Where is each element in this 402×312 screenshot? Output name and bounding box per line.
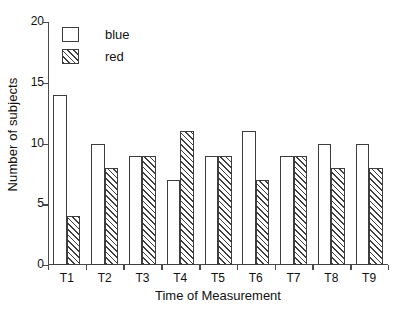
- legend-label-blue: blue: [105, 27, 130, 42]
- y-axis-tick-label: 5: [37, 196, 44, 210]
- bar-t2-blue: [91, 144, 105, 266]
- x-axis-tick-label-t4: T4: [173, 271, 187, 285]
- x-axis-tick-mark: [388, 265, 389, 270]
- x-axis-title: Time of Measurement: [48, 288, 388, 303]
- bar-t5-red: [218, 156, 232, 265]
- chart-legend: blue red: [62, 24, 130, 68]
- bar-t6-blue: [242, 131, 256, 265]
- x-axis-tick-mark: [161, 265, 162, 270]
- x-axis-tick-label-t3: T3: [135, 271, 149, 285]
- x-axis-tick-mark: [48, 265, 49, 270]
- x-axis-tick-label-t7: T7: [287, 271, 301, 285]
- bar-t4-red: [180, 131, 194, 265]
- bar-t8-red: [331, 168, 345, 265]
- y-axis-tick-label: 0: [37, 257, 44, 271]
- bar-chart: Number of subjects 05101520 T1T2T3T4T5T6…: [0, 0, 402, 312]
- legend-swatch-blue-icon: [62, 27, 79, 42]
- x-axis-tick-mark: [123, 265, 124, 270]
- bar-t5-blue: [205, 156, 219, 265]
- bar-t7-red: [294, 156, 308, 265]
- bar-t1-red: [67, 216, 81, 265]
- bar-t6-red: [256, 180, 270, 265]
- x-axis-tick-label-t1: T1: [60, 271, 74, 285]
- x-axis-tick-label-t5: T5: [211, 271, 225, 285]
- y-axis-tick-label: 20: [31, 14, 44, 28]
- bar-t8-blue: [318, 144, 332, 266]
- x-axis-tick-mark: [199, 265, 200, 270]
- y-axis-tick-label: 15: [31, 75, 44, 89]
- bar-t3-blue: [129, 156, 143, 265]
- x-axis-tick-mark: [350, 265, 351, 270]
- bar-t1-blue: [53, 95, 67, 265]
- legend-item-red: red: [62, 46, 130, 66]
- bar-t2-red: [105, 168, 119, 265]
- legend-item-blue: blue: [62, 24, 130, 44]
- y-axis-tick-label: 10: [31, 136, 44, 150]
- y-axis-title-text: Number of subjects: [6, 77, 21, 191]
- bar-t7-blue: [280, 156, 294, 265]
- bar-t4-blue: [167, 180, 181, 265]
- x-axis-tick-mark: [275, 265, 276, 270]
- x-axis-tick-label-t9: T9: [362, 271, 376, 285]
- y-axis-title: Number of subjects: [0, 0, 26, 268]
- legend-label-red: red: [105, 49, 124, 64]
- bar-t9-blue: [356, 144, 370, 266]
- x-axis-tick-label-t2: T2: [98, 271, 112, 285]
- x-axis-tick-label-t6: T6: [249, 271, 263, 285]
- legend-swatch-red-icon: [62, 49, 79, 64]
- bar-t9-red: [369, 168, 383, 265]
- x-axis-tick-mark: [237, 265, 238, 270]
- x-axis-tick-mark: [86, 265, 87, 270]
- x-axis-tick-mark: [312, 265, 313, 270]
- x-axis-tick-label-t8: T8: [324, 271, 338, 285]
- bar-t3-red: [142, 156, 156, 265]
